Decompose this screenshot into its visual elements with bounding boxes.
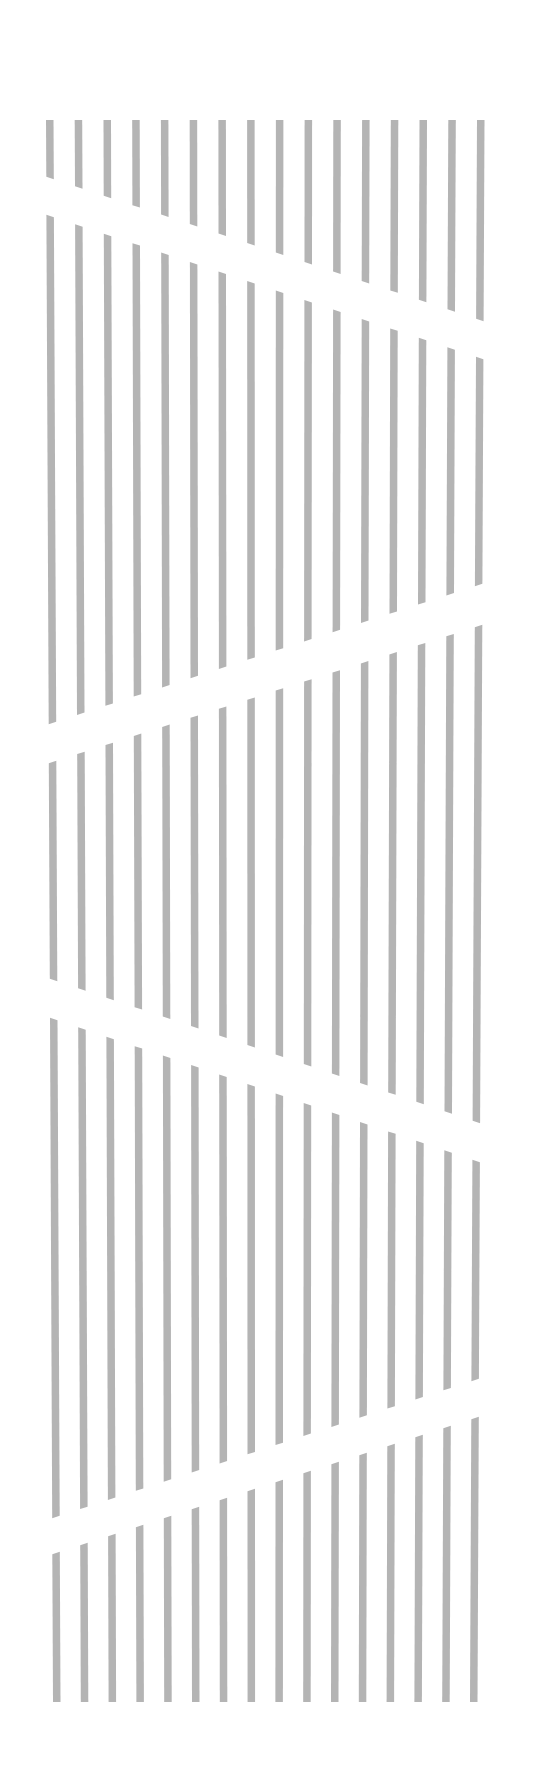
stripe-segment bbox=[247, 697, 255, 1047]
stripe-segment bbox=[445, 634, 454, 1114]
stripe-segment bbox=[359, 1122, 367, 1418]
stripe-segment bbox=[161, 253, 169, 688]
stripe-segment bbox=[220, 1498, 228, 1702]
stripe-segment bbox=[135, 1046, 144, 1491]
stripe-segment bbox=[218, 120, 226, 236]
stripe-segment bbox=[132, 120, 140, 208]
stripe-segment bbox=[134, 734, 142, 1010]
stripe-segment bbox=[387, 1444, 395, 1702]
stripe-segment bbox=[106, 743, 114, 1001]
stripe-segment bbox=[75, 224, 84, 715]
stripe-segment bbox=[46, 215, 56, 724]
vertical-stripes-group bbox=[46, 120, 485, 1702]
stripe-segment bbox=[75, 120, 83, 189]
stripe-segment bbox=[331, 1462, 339, 1702]
stripe-segment bbox=[78, 1027, 87, 1509]
stripe-segment bbox=[331, 1112, 339, 1427]
stripe-segment bbox=[108, 1534, 116, 1702]
stripe-segment bbox=[275, 1480, 283, 1702]
stripe-segment bbox=[361, 319, 369, 623]
stripe-segment bbox=[304, 679, 312, 1066]
stripe-segment bbox=[333, 120, 341, 274]
stripe-segment bbox=[471, 1160, 480, 1381]
stripe-segment bbox=[332, 670, 340, 1076]
stripe-segment bbox=[219, 706, 227, 1038]
stripe-segment bbox=[247, 281, 255, 660]
stripe-segment bbox=[362, 120, 370, 283]
stripe-segment bbox=[387, 1131, 395, 1408]
stripe-segment bbox=[415, 1141, 423, 1400]
stripe-segment bbox=[161, 120, 169, 217]
stripe-segment bbox=[52, 1552, 60, 1702]
stripe-segment bbox=[50, 1018, 60, 1518]
stripe-segment bbox=[333, 309, 341, 632]
stripe-segment bbox=[276, 291, 284, 651]
stripe-segment bbox=[247, 1084, 255, 1454]
stripe-segment bbox=[191, 1065, 199, 1472]
stripe-segment bbox=[303, 1471, 311, 1702]
stripe-segment bbox=[164, 1516, 172, 1702]
stripe-segment bbox=[163, 1056, 171, 1482]
stripe-segment bbox=[470, 1417, 479, 1702]
stripe-segment bbox=[388, 652, 397, 1095]
stripe-segment bbox=[418, 338, 426, 605]
stripe-segment bbox=[248, 1489, 256, 1702]
striped-artwork bbox=[0, 0, 542, 1790]
stripe-segment bbox=[446, 347, 455, 595]
stripe-segment bbox=[219, 1075, 227, 1464]
stripe-segment bbox=[190, 120, 198, 227]
stripe-segment bbox=[390, 328, 398, 613]
stripe-segment bbox=[360, 661, 368, 1085]
stripe-segment bbox=[305, 120, 313, 264]
stripe-segment bbox=[443, 1150, 451, 1390]
stripe-segment bbox=[276, 1094, 284, 1446]
stripe-segment bbox=[359, 1453, 367, 1702]
stripe-segment bbox=[419, 120, 427, 302]
stripe-segment bbox=[104, 120, 112, 198]
stripe-segment bbox=[448, 120, 456, 312]
stripe-segment bbox=[104, 234, 113, 706]
stripe-segment bbox=[414, 1435, 422, 1702]
stripe-segment bbox=[476, 120, 484, 321]
stripe-segment bbox=[247, 120, 255, 246]
stripe-segment bbox=[80, 1543, 88, 1702]
stripe-segment bbox=[106, 1037, 115, 1500]
stripe-segment bbox=[304, 300, 312, 641]
stripe-segment bbox=[303, 1103, 311, 1436]
stripe-segment bbox=[162, 725, 170, 1020]
stripe-segment bbox=[276, 120, 284, 255]
stripe-segment bbox=[136, 1525, 144, 1702]
stripe-segment bbox=[133, 243, 142, 696]
stripe-segment bbox=[473, 625, 483, 1123]
stripe-segment bbox=[46, 120, 54, 179]
stripe-segment bbox=[191, 716, 199, 1029]
stripe-segment bbox=[219, 272, 227, 669]
stripe-segment bbox=[442, 1426, 451, 1702]
stripe-segment bbox=[77, 752, 85, 991]
stripe-segment bbox=[276, 688, 284, 1057]
stripe-segment bbox=[390, 120, 398, 293]
stripe-segment bbox=[416, 643, 425, 1104]
stripe-segment bbox=[475, 357, 484, 586]
stripe-segment bbox=[190, 262, 198, 678]
stripe-segment bbox=[192, 1507, 200, 1702]
stripe-segment bbox=[49, 761, 58, 981]
